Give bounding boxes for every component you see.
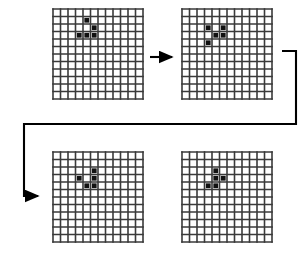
live-cell[interactable] — [84, 18, 89, 23]
live-cell[interactable] — [213, 168, 218, 173]
live-cell[interactable] — [84, 33, 89, 38]
live-cell[interactable] — [206, 183, 211, 188]
live-cell[interactable] — [206, 25, 211, 30]
live-cell[interactable] — [92, 168, 97, 173]
live-cell[interactable] — [213, 183, 218, 188]
live-cell[interactable] — [221, 25, 226, 30]
diagram-canvas — [0, 0, 307, 253]
live-cell[interactable] — [77, 176, 82, 181]
live-cell[interactable] — [92, 25, 97, 30]
live-cell[interactable] — [77, 33, 82, 38]
live-cell[interactable] — [213, 176, 218, 181]
live-cell[interactable] — [221, 176, 226, 181]
live-cell[interactable] — [221, 33, 226, 38]
live-cell[interactable] — [206, 40, 211, 45]
figure-background — [0, 0, 307, 253]
live-cell[interactable] — [92, 183, 97, 188]
cellular-automaton-figure — [0, 0, 307, 253]
live-cell[interactable] — [84, 183, 89, 188]
live-cell[interactable] — [92, 33, 97, 38]
live-cell[interactable] — [213, 33, 218, 38]
live-cell[interactable] — [92, 176, 97, 181]
